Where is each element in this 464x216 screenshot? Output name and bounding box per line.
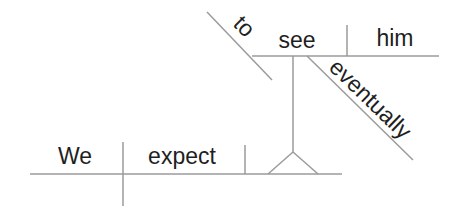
pedestal-right-leg-line bbox=[293, 152, 318, 174]
subject-word: We bbox=[50, 145, 100, 168]
pedestal-left-leg-line bbox=[268, 152, 293, 174]
verb-word: expect bbox=[145, 145, 219, 168]
sentence-diagram: We expect to see him eventually bbox=[0, 0, 464, 216]
infinitive-verb-word: see bbox=[270, 29, 324, 52]
infinitive-object-word: him bbox=[368, 27, 422, 50]
